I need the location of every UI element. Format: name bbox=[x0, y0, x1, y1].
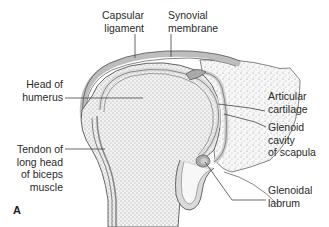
panel-letter: A bbox=[13, 204, 21, 216]
label-articular-cartilage: Articular cartilage bbox=[268, 90, 308, 115]
label-synovial-membrane: Synovial membrane bbox=[168, 9, 218, 34]
label-capsular-ligament: Capsular ligament bbox=[94, 9, 144, 34]
label-glenoidal-labrum: Glenoidal labrum bbox=[268, 184, 312, 209]
shoulder-joint-diagram: Capsular ligament Synovial membrane Head… bbox=[0, 0, 329, 227]
label-glenoid-cavity: Glenoid cavity of scapula bbox=[268, 121, 316, 159]
label-head-of-humerus: Head of humerus bbox=[10, 78, 63, 103]
label-tendon-biceps: Tendon of long head of biceps muscle bbox=[0, 143, 63, 193]
